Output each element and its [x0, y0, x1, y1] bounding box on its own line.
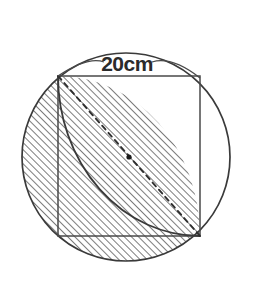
right-segment-white — [200, 0, 253, 236]
top-segment-white — [58, 0, 253, 76]
dimension-label: 20cm — [101, 52, 153, 75]
circle-center-dot — [126, 154, 131, 159]
geometry-figure: 20cm — [0, 0, 253, 288]
figure-canvas: 20cm — [0, 0, 253, 288]
top-segment-shape — [58, 0, 253, 76]
right-segment-shape — [200, 0, 253, 236]
